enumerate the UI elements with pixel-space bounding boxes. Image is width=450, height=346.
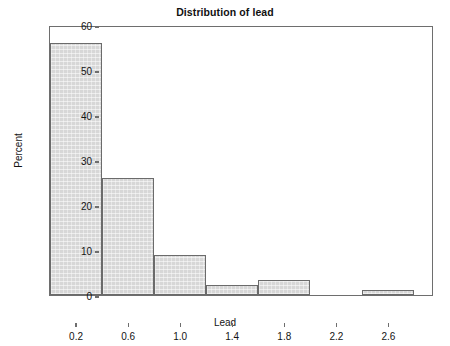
x-tick-label: 0.6 bbox=[108, 330, 148, 344]
histogram-bar bbox=[50, 43, 102, 295]
x-tick-label: 2.2 bbox=[316, 330, 356, 344]
x-tick-mark bbox=[75, 323, 76, 327]
chart-title: Distribution of lead bbox=[0, 6, 450, 18]
y-tick-label: 60 bbox=[81, 20, 92, 34]
x-tick-mark bbox=[180, 323, 181, 327]
x-tick-mark bbox=[336, 323, 337, 327]
y-tick-mark bbox=[95, 71, 99, 72]
y-tick-mark bbox=[95, 251, 99, 252]
x-tick-label: 0.2 bbox=[56, 330, 96, 344]
y-tick-label: 30 bbox=[81, 155, 92, 169]
x-tick-label: 1.0 bbox=[160, 330, 200, 344]
histogram-bar bbox=[362, 290, 414, 295]
plot-area: 0102030405060 0.20.61.01.41.82.22.6 bbox=[49, 26, 433, 296]
x-axis-title: Lead bbox=[0, 317, 450, 328]
x-tick-mark bbox=[232, 323, 233, 327]
y-tick-label: 50 bbox=[81, 65, 92, 79]
y-tick-mark bbox=[95, 296, 99, 297]
y-tick-label: 10 bbox=[81, 245, 92, 259]
y-tick-label: 0 bbox=[86, 290, 92, 304]
histogram-bar bbox=[154, 255, 206, 295]
x-tick-mark bbox=[128, 323, 129, 327]
x-tick-label: 2.6 bbox=[368, 330, 408, 344]
x-tick-mark bbox=[388, 323, 389, 327]
bars-layer bbox=[50, 27, 432, 295]
y-tick-label: 40 bbox=[81, 110, 92, 124]
y-tick-mark bbox=[95, 26, 99, 27]
histogram-chart: Distribution of lead Percent Lead 010203… bbox=[0, 0, 450, 346]
y-tick-mark bbox=[95, 206, 99, 207]
y-tick-mark bbox=[95, 161, 99, 162]
histogram-bar bbox=[206, 285, 258, 295]
x-tick-mark bbox=[284, 323, 285, 327]
y-tick-mark bbox=[95, 116, 99, 117]
x-tick-label: 1.8 bbox=[264, 330, 304, 344]
histogram-bar bbox=[102, 178, 154, 295]
histogram-bar bbox=[258, 280, 310, 295]
y-axis-title: Percent bbox=[13, 106, 24, 196]
y-tick-label: 20 bbox=[81, 200, 92, 214]
x-tick-label: 1.4 bbox=[212, 330, 252, 344]
